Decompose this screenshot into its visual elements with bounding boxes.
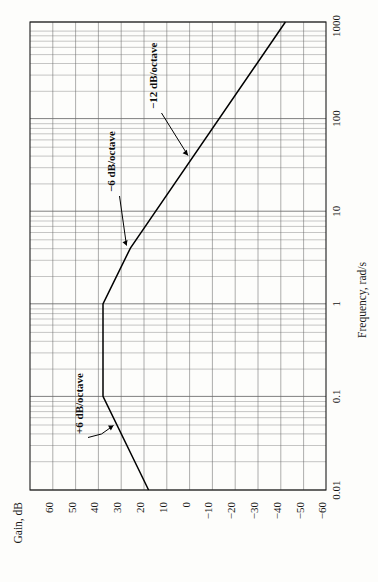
gain-tick: 40 xyxy=(88,502,100,514)
gain-tick: 60 xyxy=(43,502,55,514)
frequency-axis-tick-labels: 0.01 0.1 1 10 100 1000 xyxy=(330,15,342,500)
gain-tick: −50 xyxy=(294,502,306,520)
bode-plot-svg: +6 dB/octave −6 dB/octave −12 dB/octave … xyxy=(0,0,378,582)
arrowhead-icon xyxy=(108,425,114,430)
gain-tick: −30 xyxy=(248,502,260,520)
annotation-label-minus-6: −6 dB/octave xyxy=(105,131,117,192)
annotation-label-minus-12: −12 dB/octave xyxy=(147,42,159,109)
gain-tick: −40 xyxy=(271,502,283,520)
annotation-label-plus-6: +6 dB/octave xyxy=(73,373,85,434)
gain-gridlines xyxy=(53,22,304,490)
frequency-tick: 1000 xyxy=(330,15,342,38)
bode-plot-figure: +6 dB/octave −6 dB/octave −12 dB/octave … xyxy=(0,0,378,582)
gain-tick: −20 xyxy=(225,502,237,520)
frequency-tick: 0.1 xyxy=(330,390,342,404)
gain-tick: −10 xyxy=(202,502,214,520)
frequency-tick: 1 xyxy=(330,301,342,307)
gain-axis-title: Gain, dB xyxy=(12,502,25,544)
frequency-axis-title: Frequency, rad/s xyxy=(356,262,369,338)
gain-tick: 30 xyxy=(111,502,123,514)
gain-tick: 0 xyxy=(180,502,192,508)
gain-tick: 50 xyxy=(66,502,78,514)
annotation-minus-12-db-per-octave: −12 dB/octave xyxy=(147,42,188,155)
frequency-tick: 0.01 xyxy=(330,480,342,499)
gain-tick: −60 xyxy=(316,502,328,520)
gain-tick: 20 xyxy=(134,502,146,514)
frequency-tick: 10 xyxy=(330,205,342,217)
gain-tick: 10 xyxy=(157,502,169,514)
annotation-minus-6-db-per-octave: −6 dB/octave xyxy=(105,131,128,246)
frequency-tick: 100 xyxy=(330,110,342,127)
gain-axis-tick-labels: 60 50 40 30 20 10 0 −10 −20 −30 −40 −50 … xyxy=(43,502,329,520)
